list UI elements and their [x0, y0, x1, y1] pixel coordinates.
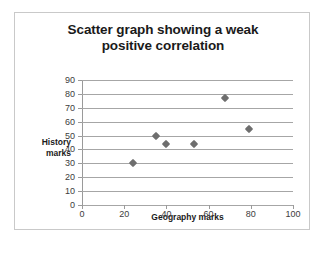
gridline — [82, 122, 293, 123]
x-axis-tick-label: 100 — [285, 209, 300, 219]
y-axis-tick — [78, 136, 82, 137]
gridline — [82, 149, 293, 150]
data-point — [221, 94, 229, 102]
y-axis-tick — [78, 122, 82, 123]
data-point — [244, 124, 252, 132]
y-axis-tick — [78, 108, 82, 109]
y-axis-title: History marks — [15, 137, 71, 159]
y-axis-tick-label: 40 — [65, 144, 75, 154]
y-axis-tick-label: 60 — [65, 117, 75, 127]
x-axis-tick-label: 80 — [246, 209, 256, 219]
y-axis-tick-label: 20 — [65, 172, 75, 182]
y-axis-tick-label: 0 — [70, 200, 75, 210]
gridline — [82, 191, 293, 192]
y-axis-tick — [78, 149, 82, 150]
data-point — [190, 140, 198, 148]
gridline — [82, 136, 293, 137]
y-axis-tick — [78, 191, 82, 192]
plot-area: 0102030405060708090 020406080100 — [82, 80, 293, 205]
data-point — [152, 131, 160, 139]
y-axis-tick-label: 90 — [65, 75, 75, 85]
y-axis-tick — [78, 94, 82, 95]
y-axis-tick — [78, 80, 82, 81]
chart-card: Scatter graph showing a weak positive co… — [14, 12, 310, 230]
gridline — [82, 205, 293, 206]
chart-title-line-2: positive correlation — [15, 38, 311, 54]
gridline — [82, 108, 293, 109]
y-axis-tick-label: 80 — [65, 89, 75, 99]
gridline — [82, 163, 293, 164]
data-point — [162, 140, 170, 148]
y-axis-title-line-2: marks — [15, 148, 71, 159]
x-axis-tick-label: 0 — [79, 209, 84, 219]
x-axis-tick-label: 40 — [161, 209, 171, 219]
y-axis-tick-label: 70 — [65, 103, 75, 113]
y-axis-line — [82, 80, 83, 206]
y-axis-tick-label: 10 — [65, 186, 75, 196]
gridline — [82, 80, 293, 81]
gridline — [82, 94, 293, 95]
data-point — [128, 159, 136, 167]
chart-title: Scatter graph showing a weak positive co… — [15, 22, 311, 54]
x-axis-tick-label: 60 — [204, 209, 214, 219]
x-axis-tick-label: 20 — [119, 209, 129, 219]
gridline — [82, 177, 293, 178]
chart-title-line-1: Scatter graph showing a weak — [15, 22, 311, 38]
y-axis-tick-label: 50 — [65, 131, 75, 141]
y-axis-title-line-1: History — [15, 137, 71, 148]
y-axis-tick-label: 30 — [65, 158, 75, 168]
y-axis-tick — [78, 177, 82, 178]
y-axis-tick — [78, 163, 82, 164]
x-axis-title: Geography marks — [82, 212, 293, 222]
